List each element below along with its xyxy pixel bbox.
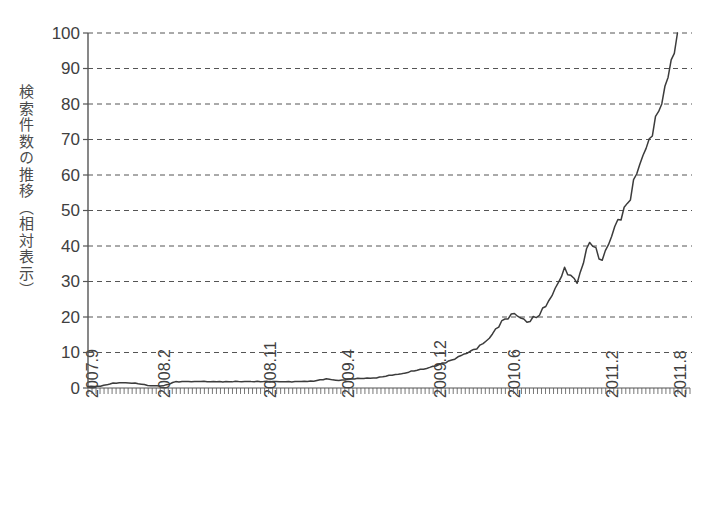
chart-plot-area [0,0,704,510]
data-series-line [88,33,677,387]
y-axis-major-ticks [83,33,88,388]
gridlines [88,33,692,353]
x-axis-minor-ticks [88,388,690,394]
chart-container: 検索件数の推移（相対表示） 100 90 80 70 60 50 40 30 2… [0,0,704,510]
